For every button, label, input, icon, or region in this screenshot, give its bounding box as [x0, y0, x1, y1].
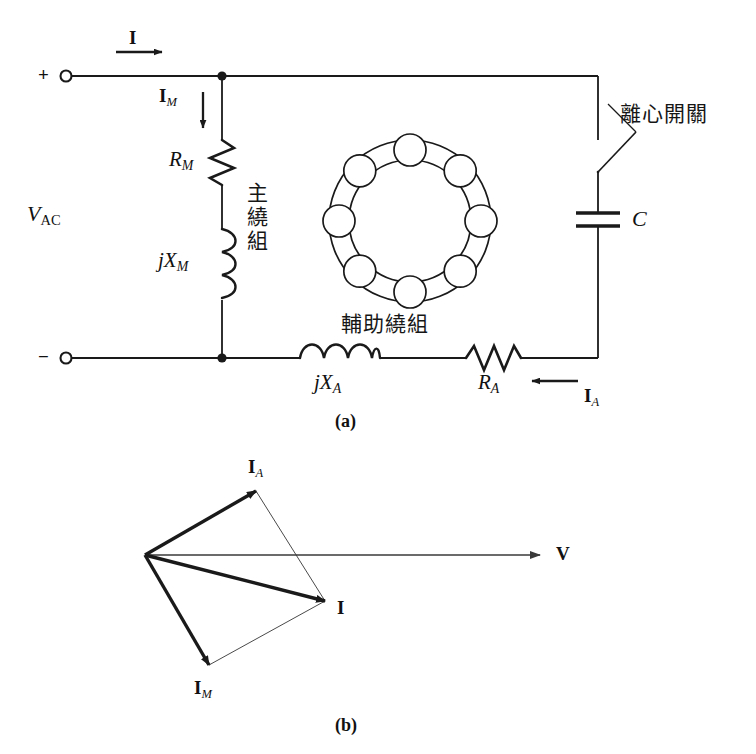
current-label-i: I: [129, 28, 136, 47]
current-label-im: IM: [159, 86, 177, 108]
aux-winding-label: 輔助繞組: [341, 314, 429, 335]
main-winding-label: 主繞組: [245, 182, 266, 254]
current-subscript-ia: A: [591, 395, 599, 409]
phasor-subscript-ia: A: [255, 466, 263, 480]
junction-dot-top: [217, 71, 226, 80]
reactance-label-jxm: jXM: [158, 250, 188, 274]
phasor-label-v: V: [556, 544, 570, 563]
centrifugal-switch[interactable]: [597, 132, 636, 173]
capacitor-label-c: C: [632, 208, 647, 230]
reactance-symbol-jxm: jX: [158, 248, 177, 272]
current-symbol-i: I: [129, 27, 136, 48]
inductor-jxm-symbol: [222, 229, 236, 298]
current-subscript-im: M: [166, 95, 176, 109]
panel-b-caption: (b): [335, 716, 357, 734]
junction-dot-bottom: [217, 353, 226, 362]
resistor-ra-symbol: [466, 346, 521, 370]
reactance-subscript-jxm: M: [177, 259, 189, 274]
phasor-vector-im: [145, 555, 209, 665]
panel-a-caption: (a): [335, 412, 356, 430]
resistor-label-rm: RM: [169, 149, 193, 173]
resistor-subscript-rm: M: [182, 158, 194, 173]
phasor-label-ia: IA: [248, 457, 263, 479]
resistor-label-ra: RA: [478, 372, 499, 396]
rotor-conductor-bars: [323, 134, 497, 308]
resistor-rm-symbol: [210, 140, 234, 185]
reactance-label-jxa: jXA: [314, 372, 341, 396]
centrifugal-switch-label: 離心開關: [620, 104, 708, 125]
phasor-vector-i: [145, 555, 325, 601]
terminal-positive[interactable]: [61, 71, 72, 82]
terminal-minus-sign: −: [38, 347, 49, 366]
resistor-subscript-ra: A: [491, 381, 499, 396]
reactance-symbol-jxa: jX: [314, 370, 333, 394]
reactance-subscript-jxa: A: [333, 381, 341, 396]
phasor-panel: [145, 491, 540, 665]
resistor-symbol-rm: R: [169, 147, 182, 171]
inductor-jxa-symbol: [300, 345, 380, 359]
capacitor-symbol: [576, 213, 620, 226]
rotor-stator-symbol: [323, 134, 497, 308]
figure-root: + − VAC I IM IA RM jXM jXA RA C 主繞組 輔助繞組…: [0, 0, 756, 754]
terminal-plus-sign: +: [38, 65, 49, 84]
source-voltage-label: VAC: [27, 203, 61, 228]
phasor-label-i: I: [337, 598, 344, 617]
source-voltage-symbol: V: [27, 201, 40, 226]
phasor-construction-lines: [209, 491, 325, 665]
phasor-label-im: IM: [194, 678, 212, 700]
phasor-vector-ia: [145, 491, 256, 555]
resistor-symbol-ra: R: [478, 370, 491, 394]
terminal-negative[interactable]: [61, 353, 72, 364]
current-label-ia: IA: [584, 386, 599, 408]
source-voltage-subscript: AC: [40, 212, 60, 228]
phasor-subscript-im: M: [201, 687, 211, 701]
